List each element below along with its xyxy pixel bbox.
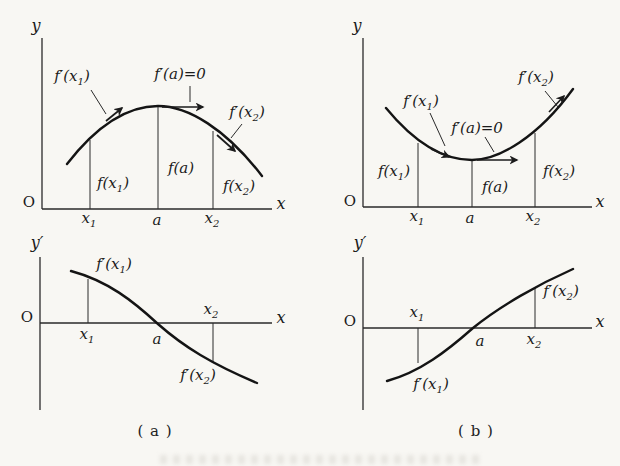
tl-label-f-x1: f(x1) [97, 176, 129, 194]
caption-panel-a: ( a ) [137, 424, 172, 439]
tl-tick-x2: x2 [205, 211, 220, 229]
tl-pointer-fprime-x1 [91, 90, 106, 114]
tr-label-f-x2: f(x2) [543, 164, 575, 182]
textbook-figure: y O x f′(x1) f′(a)=0 f′(x2) f(x1) f(a) f… [0, 0, 620, 466]
bl-label-fprime-x2: f′(x2) [180, 368, 216, 386]
tl-label-fprime-a-equals-0: f′(a)=0 [154, 67, 206, 82]
caption-panel-b: ( b ) [458, 424, 494, 439]
br-tick-x2: x2 [527, 332, 542, 350]
br-x-axis-label: x [595, 314, 604, 330]
tr-y-axis-label: y [352, 18, 361, 34]
bl-x-axis-label: x [276, 310, 285, 326]
br-y-axis-label: y′ [354, 235, 367, 251]
br-label-fprime-x1: f′(x1) [413, 377, 449, 395]
bl-origin-label: O [21, 310, 33, 325]
tr-tangent-arrow-x1 [431, 149, 449, 157]
tr-tick-x2: x2 [526, 209, 541, 227]
tl-label-f-x2: f(x2) [223, 179, 255, 197]
br-tick-a: a [476, 334, 485, 349]
tr-x-axis-label: x [595, 194, 604, 210]
bl-derivative-curve [71, 271, 257, 383]
tr-label-fprime-x2: f′(x2) [518, 70, 554, 88]
tl-label-fprime-x2: f′(x2) [229, 105, 265, 123]
tr-label-fprime-a-equals-0: f′(a)=0 [451, 121, 503, 136]
tl-origin-label: O [23, 195, 35, 210]
tl-x-axis-label: x [276, 196, 285, 212]
bl-tick-x1: x1 [80, 327, 95, 345]
tl-tick-x1: x1 [82, 211, 97, 229]
tr-origin-label: O [344, 194, 356, 209]
tl-pointer-fprime-x2 [231, 124, 242, 138]
tr-label-fprime-x1: f′(x1) [403, 94, 439, 112]
tr-pointer-fprime-a [485, 137, 494, 152]
tl-tick-a: a [153, 213, 162, 228]
tl-label-fprime-x1: f′(x1) [54, 69, 90, 87]
br-origin-label: O [344, 314, 356, 329]
br-label-fprime-x2: f′(x2) [543, 284, 579, 302]
bl-label-fprime-x1: f′(x1) [96, 257, 132, 275]
bl-tick-a: a [153, 332, 162, 347]
bl-y-axis-label: y′ [31, 235, 44, 251]
tl-y-axis-label: y [31, 18, 40, 34]
tr-label-f-x1: f(x1) [378, 164, 410, 182]
cut-off-caption-artifact [160, 455, 480, 464]
tr-tick-x1: x1 [410, 209, 425, 227]
bl-tick-x2: x2 [204, 302, 219, 320]
tr-pointer-fprime-x1 [430, 113, 445, 146]
br-tick-x1: x1 [410, 305, 425, 323]
tr-label-f-a: f(a) [482, 180, 508, 195]
tl-label-f-a: f(a) [168, 161, 194, 176]
tr-tick-a: a [466, 211, 475, 226]
